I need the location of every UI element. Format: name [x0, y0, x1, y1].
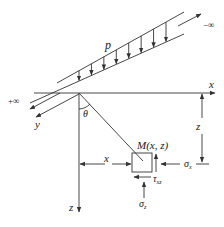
pos-infinity-label: +∞ — [8, 96, 20, 106]
theta-label: θ — [83, 108, 88, 119]
sigma-z-label: σz — [139, 198, 147, 210]
stress-diagram: p −∞ +∞ x y z θ M(x, z) x z σx τxz σz — [0, 0, 224, 227]
point-m-label: M(x, z) — [136, 139, 168, 152]
neg-infinity-arrow — [178, 14, 201, 26]
load-strip-upper-line — [57, 12, 184, 83]
z-axis-label: z — [68, 201, 74, 213]
tau-xz-label: τxz — [153, 173, 162, 185]
x-axis-label: x — [208, 78, 214, 90]
y-axis-label: y — [34, 118, 40, 130]
neg-infinity-label: −∞ — [203, 20, 215, 30]
load-label: p — [104, 38, 111, 52]
dim-x-label: x — [103, 152, 109, 164]
stress-element — [132, 153, 152, 172]
load-arrows — [79, 22, 166, 80]
dim-z-label: z — [195, 120, 201, 132]
sigma-x-label: σx — [184, 158, 192, 170]
radius-line — [79, 93, 143, 161]
